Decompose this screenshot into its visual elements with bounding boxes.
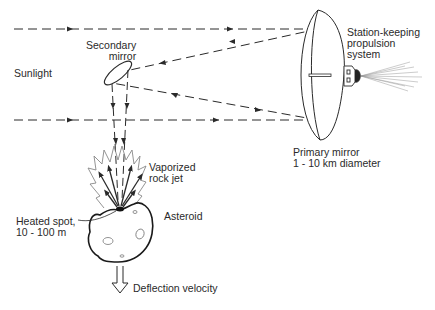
station-text-line3: system <box>347 49 420 60</box>
label-station-keeping: Station-keeping propulsion system <box>347 27 420 60</box>
label-deflection: Deflection velocity <box>133 283 218 294</box>
deflection-arrow <box>112 266 128 293</box>
asteroid-text: Asteroid <box>164 210 203 222</box>
heated-spot <box>116 207 124 212</box>
label-vaporized-jet: Vaporized rock jet <box>149 162 196 184</box>
reflected-rays <box>112 29 318 120</box>
secondary-text-line2: mirror <box>86 51 136 62</box>
heated-text-line2: 10 - 100 m <box>16 227 76 238</box>
primary-text-line2: 1 - 10 km diameter <box>293 158 381 169</box>
deflection-text: Deflection velocity <box>133 282 218 294</box>
label-primary-mirror: Primary mirror 1 - 10 km diameter <box>293 147 381 169</box>
jet-arrows <box>100 168 141 207</box>
label-asteroid: Asteroid <box>164 211 203 222</box>
reflected-arrowheads <box>159 39 261 112</box>
focused-beam <box>112 70 128 200</box>
asteroid <box>88 203 152 262</box>
thruster <box>344 66 360 86</box>
sunlight-text: Sunlight <box>14 67 52 79</box>
thruster-exhaust <box>361 62 422 91</box>
vaporized-text-line2: rock jet <box>149 173 196 184</box>
sunlight-rays <box>14 29 318 120</box>
primary-mirror-strut <box>309 74 331 77</box>
label-sunlight: Sunlight <box>14 68 52 79</box>
label-secondary-mirror: Secondary mirror <box>86 40 136 62</box>
label-heated-spot: Heated spot, 10 - 100 m <box>16 216 76 238</box>
